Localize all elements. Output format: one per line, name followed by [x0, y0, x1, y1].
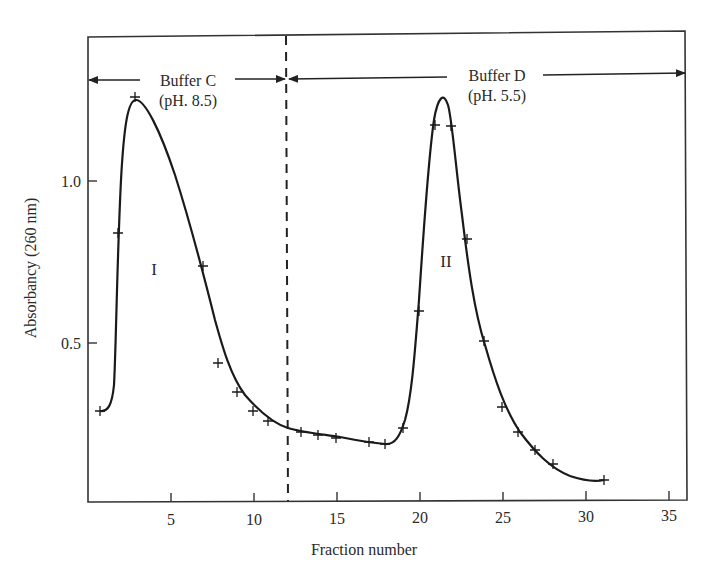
data-point-markers — [95, 92, 609, 485]
data-point-marker — [599, 475, 609, 485]
x-axis-tick-labels: 5 10 15 20 25 30 35 — [167, 507, 677, 528]
y-axis-ticks — [88, 181, 97, 343]
chromatography-chart: 5 10 15 20 25 30 35 0.5 1.0 Fraction num… — [0, 0, 711, 575]
buffer-c-label: Buffer C — [160, 72, 216, 89]
peak-i-label: I — [151, 260, 157, 279]
x-tick-label: 25 — [495, 509, 511, 526]
data-point-marker — [380, 439, 390, 449]
data-point-marker — [313, 430, 323, 440]
data-point-marker — [364, 437, 374, 447]
data-point-marker — [446, 121, 456, 131]
y-tick-label: 0.5 — [61, 335, 81, 352]
buffer-d-label: Buffer D — [468, 67, 525, 84]
x-tick-label: 30 — [578, 508, 594, 525]
data-point-marker — [296, 427, 306, 437]
x-tick-label: 20 — [412, 509, 428, 526]
x-tick-label: 5 — [167, 511, 175, 528]
y-axis-title: Absorbancy (260 nm) — [22, 198, 40, 338]
data-point-marker — [430, 120, 440, 130]
peak-ii-label: II — [440, 252, 452, 271]
data-point-marker — [548, 459, 558, 469]
x-axis-title: Fraction number — [311, 541, 418, 558]
buffer-d-ph-label: (pH. 5.5) — [468, 87, 526, 105]
data-point-marker — [113, 228, 123, 238]
data-point-marker — [213, 358, 223, 368]
x-tick-label: 35 — [661, 507, 677, 524]
data-point-marker — [414, 306, 424, 316]
y-axis-tick-labels: 0.5 1.0 — [61, 173, 81, 352]
absorbance-curve — [100, 98, 604, 481]
x-tick-label: 10 — [246, 511, 262, 528]
buffer-change-dashed-line — [286, 36, 288, 501]
data-point-marker — [479, 336, 489, 346]
data-point-marker — [95, 406, 105, 416]
x-tick-label: 15 — [329, 510, 345, 527]
buffer-c-ph-label: (pH. 8.5) — [159, 92, 217, 110]
y-tick-label: 1.0 — [61, 173, 81, 190]
data-point-marker — [263, 416, 273, 426]
data-point-marker — [331, 433, 341, 443]
data-point-marker — [398, 423, 408, 433]
